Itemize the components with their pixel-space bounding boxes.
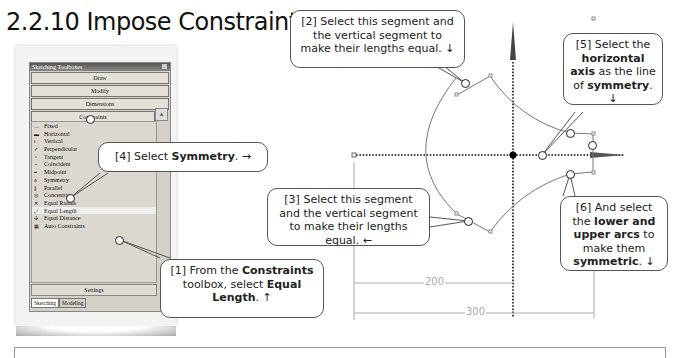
marker-upper-arc bbox=[566, 129, 575, 138]
callout-step-3: [3] Select this segment and the vertical… bbox=[267, 188, 430, 246]
marker-lower-segment bbox=[464, 217, 473, 226]
dimension-300: 300 bbox=[465, 306, 486, 317]
upper-arc bbox=[490, 76, 570, 133]
callout-step-6: [6] And select the lower and upper arcs … bbox=[560, 196, 668, 271]
marker-lower-arc bbox=[566, 170, 575, 179]
marker-equal-length bbox=[115, 236, 124, 245]
marker-constraints bbox=[86, 115, 95, 124]
next-section-box bbox=[14, 347, 666, 358]
lower-arc bbox=[490, 174, 570, 232]
marker-vertical bbox=[588, 141, 597, 150]
y-axis-arrow-icon bbox=[510, 22, 516, 60]
dimension-200: 200 bbox=[424, 276, 445, 287]
origin-point bbox=[510, 152, 517, 159]
lower-slant-segment bbox=[457, 214, 490, 232]
marker-upper-segment bbox=[461, 79, 470, 88]
callout-step-5: [5] Select the horizontal axis as the li… bbox=[563, 33, 663, 105]
callout-step-1: [1] From the Constraints toolbox, select… bbox=[160, 259, 324, 318]
callout-step-2: [2] Select this segment and the vertical… bbox=[290, 10, 465, 68]
marker-horizontal-axis bbox=[538, 151, 547, 160]
callout-step-4: [4] Select Symmetry. → bbox=[98, 142, 268, 172]
point-handle bbox=[352, 153, 356, 157]
x-axis-arrow-icon bbox=[590, 152, 625, 158]
marker-symmetry bbox=[66, 194, 75, 203]
left-arc bbox=[426, 78, 457, 214]
